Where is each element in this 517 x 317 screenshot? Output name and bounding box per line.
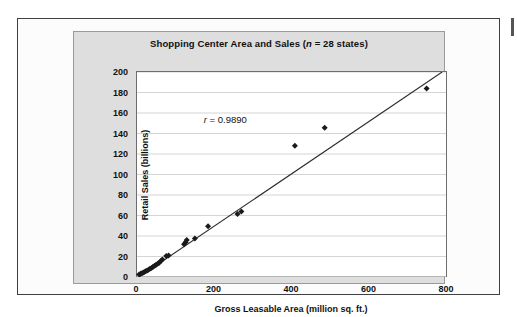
chart-title-prefix: Shopping Center Area and Sales ( (150, 38, 306, 49)
figure-outer-frame: Shopping Center Area and Sales (n = 28 s… (17, 18, 500, 295)
y-tick-label-0: 0 (96, 272, 128, 282)
plot-area: Retail Sales (billions) Gross Leasable A… (136, 71, 447, 277)
chart-title: Shopping Center Area and Sales (n = 28 s… (74, 38, 444, 49)
x-tick-label-0: 0 (133, 284, 138, 294)
x-tick-label-600: 600 (361, 284, 376, 294)
x-axis-label: Gross Leasable Area (million sq. ft.) (214, 304, 367, 314)
y-tick-label-200: 200 (96, 67, 128, 77)
y-tick-label-80: 80 (96, 190, 128, 200)
correlation-value: = 0.9890 (207, 114, 247, 125)
y-axis-label: Retail Sales (billions) (140, 129, 150, 220)
y-tick-label-120: 120 (96, 149, 128, 159)
y-tick-label-100: 100 (96, 170, 128, 180)
plot-svg (136, 72, 446, 277)
figure-root: Shopping Center Area and Sales (n = 28 s… (0, 0, 517, 317)
y-tick-label-160: 160 (96, 108, 128, 118)
y-tick-label-140: 140 (96, 129, 128, 139)
data-point-27 (424, 85, 430, 91)
y-tick-label-40: 40 (96, 231, 128, 241)
y-tick-label-60: 60 (96, 211, 128, 221)
correlation-annotation: r = 0.9890 (204, 114, 247, 125)
data-points (136, 85, 430, 277)
page-edge-mark (511, 18, 514, 36)
data-point-26 (322, 125, 328, 131)
data-point-25 (292, 143, 298, 149)
y-tick-label-20: 20 (96, 252, 128, 262)
chart-panel: Shopping Center Area and Sales (n = 28 s… (73, 31, 445, 284)
x-tick-label-800: 800 (438, 284, 453, 294)
x-tick-label-200: 200 (206, 284, 221, 294)
y-tick-label-180: 180 (96, 88, 128, 98)
x-tick-label-400: 400 (283, 284, 298, 294)
chart-title-suffix: = 28 states) (312, 38, 368, 49)
